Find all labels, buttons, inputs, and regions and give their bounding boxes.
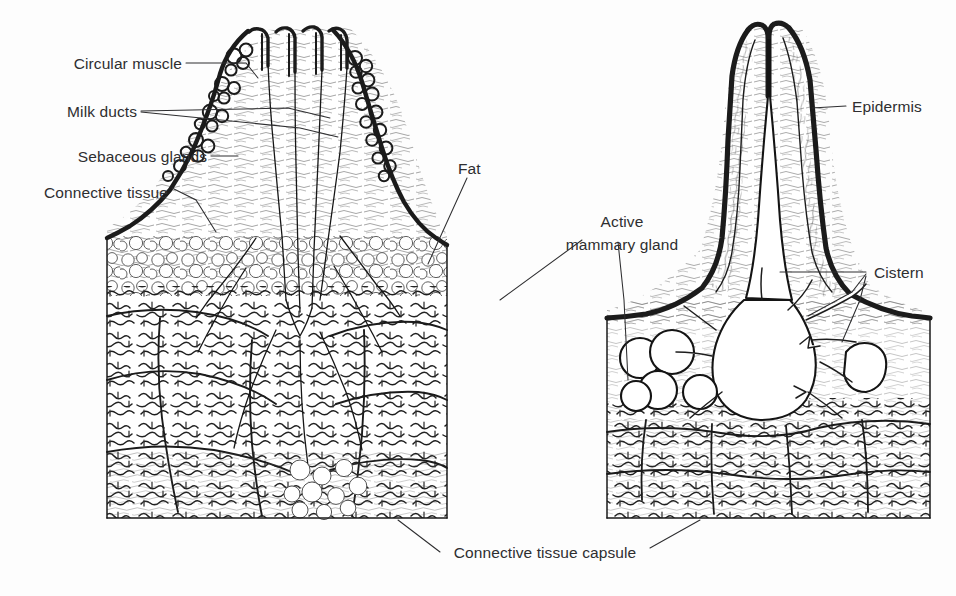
label-sebaceous-glands: Sebaceous glands [78, 148, 207, 165]
label-fat: Fat [458, 160, 481, 177]
label-active-mammary-gland-line2: mammary gland [566, 236, 678, 253]
mammary-gland-diagram: Circular muscle Milk ducts Sebaceous gla… [0, 0, 956, 596]
label-active-mammary-gland-line1: Active [601, 213, 644, 230]
leader-capsule-right [650, 520, 700, 548]
diagram-canvas: Circular muscle Milk ducts Sebaceous gla… [0, 0, 956, 596]
leader-capsule-left [398, 520, 440, 552]
label-connective-tissue: Connective tissue [44, 184, 168, 201]
left-stroma-texture [107, 28, 449, 518]
right-capsule-band [607, 420, 930, 518]
label-circular-muscle: Circular muscle [74, 55, 182, 72]
label-epidermis: Epidermis [852, 98, 922, 115]
left-panel [107, 27, 449, 520]
label-connective-tissue-capsule: Connective tissue capsule [454, 544, 637, 561]
label-milk-ducts: Milk ducts [67, 103, 137, 120]
label-cistern: Cistern [874, 264, 924, 281]
left-capsule-band [107, 452, 447, 520]
